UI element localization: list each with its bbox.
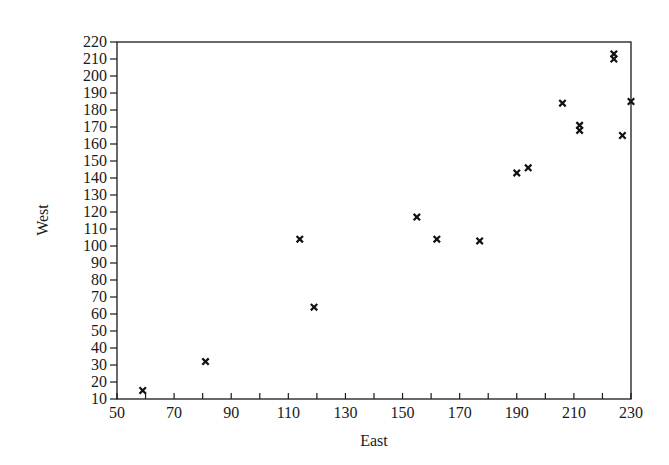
y-tick-label: 220 xyxy=(83,33,107,50)
y-tick-label: 190 xyxy=(83,84,107,101)
y-tick-label: 140 xyxy=(83,169,107,186)
y-tick-label: 80 xyxy=(91,271,107,288)
y-tick-label: 20 xyxy=(91,373,107,390)
y-tick-label: 30 xyxy=(91,356,107,373)
y-tick-label: 70 xyxy=(91,288,107,305)
data-point-x-marker-icon xyxy=(140,387,146,393)
plot-border xyxy=(117,42,631,399)
data-point-x-marker-icon xyxy=(414,214,420,220)
data-point-x-marker-icon xyxy=(202,358,208,364)
y-tick-label: 130 xyxy=(83,186,107,203)
y-axis-ticks: 1020304050607080901001101201301401501601… xyxy=(83,33,117,407)
data-points xyxy=(140,51,635,394)
data-point-x-marker-icon xyxy=(576,127,582,133)
plot-frame xyxy=(117,42,631,399)
y-tick-label: 200 xyxy=(83,67,107,84)
x-tick-label: 230 xyxy=(619,404,643,421)
y-tick-label: 10 xyxy=(91,390,107,407)
x-tick-label: 50 xyxy=(109,404,125,421)
x-tick-label: 190 xyxy=(505,404,529,421)
x-tick-label: 110 xyxy=(277,404,300,421)
y-tick-label: 150 xyxy=(83,152,107,169)
y-tick-label: 90 xyxy=(91,254,107,271)
y-tick-label: 110 xyxy=(84,220,107,237)
y-tick-label: 120 xyxy=(83,203,107,220)
x-tick-label: 90 xyxy=(223,404,239,421)
data-point-x-marker-icon xyxy=(559,100,565,106)
y-tick-label: 50 xyxy=(91,322,107,339)
data-point-x-marker-icon xyxy=(514,170,520,176)
y-tick-label: 210 xyxy=(83,50,107,67)
x-tick-label: 150 xyxy=(391,404,415,421)
data-point-x-marker-icon xyxy=(311,304,317,310)
x-tick-label: 170 xyxy=(448,404,472,421)
x-tick-label: 130 xyxy=(333,404,357,421)
y-tick-label: 40 xyxy=(91,339,107,356)
scatter-chart: 507090110130150170190210230 102030405060… xyxy=(0,0,669,465)
data-point-x-marker-icon xyxy=(297,236,303,242)
y-tick-label: 180 xyxy=(83,101,107,118)
data-point-x-marker-icon xyxy=(434,236,440,242)
y-tick-label: 100 xyxy=(83,237,107,254)
y-tick-label: 160 xyxy=(83,135,107,152)
y-tick-label: 170 xyxy=(83,118,107,135)
data-point-x-marker-icon xyxy=(619,132,625,138)
data-point-x-marker-icon xyxy=(525,165,531,171)
y-axis-label: West xyxy=(34,204,51,236)
x-tick-label: 210 xyxy=(562,404,586,421)
y-tick-label: 60 xyxy=(91,305,107,322)
data-point-x-marker-icon xyxy=(476,238,482,244)
x-axis-ticks: 507090110130150170190210230 xyxy=(109,393,643,421)
x-tick-label: 70 xyxy=(166,404,182,421)
x-axis-label: East xyxy=(360,432,388,449)
data-point-x-marker-icon xyxy=(611,56,617,62)
